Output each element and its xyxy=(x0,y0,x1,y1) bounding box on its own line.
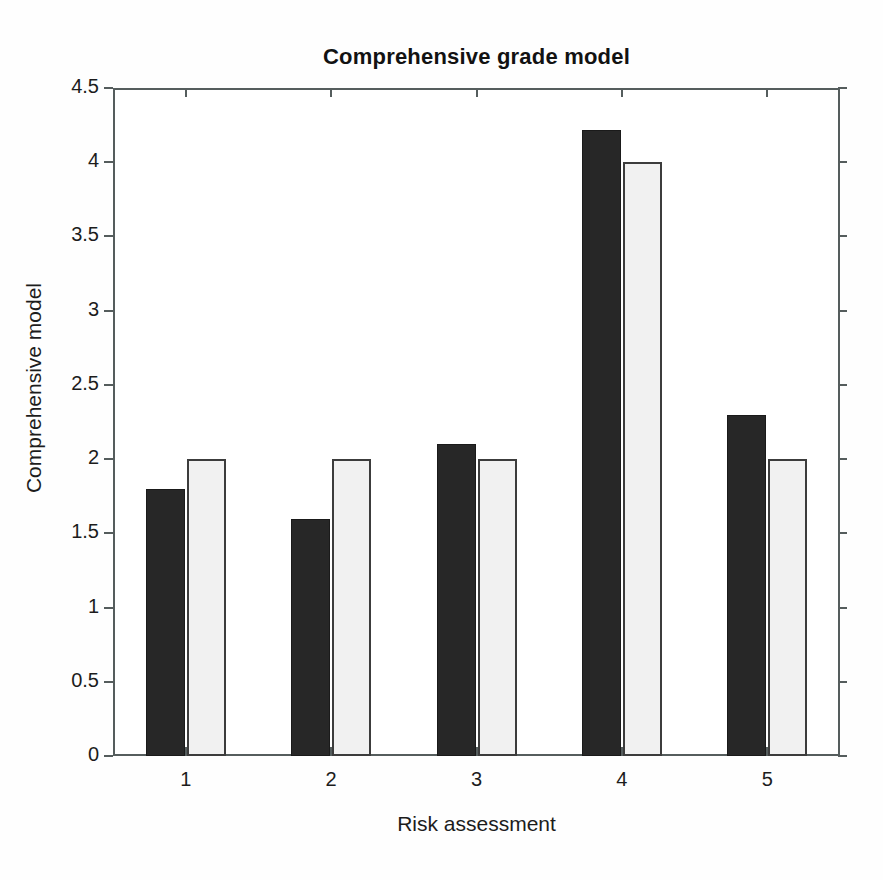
bars-layer xyxy=(113,88,840,756)
bar-light-series-3 xyxy=(478,459,517,756)
y-tick-mark xyxy=(104,161,113,163)
chart-title: Comprehensive grade model xyxy=(113,44,840,70)
y-tick-label: 0 xyxy=(88,743,99,766)
x-tick-label: 5 xyxy=(737,768,797,791)
bar-light-series-5 xyxy=(768,459,807,756)
bar-dark-series-1 xyxy=(146,489,185,756)
bar-light-series-1 xyxy=(187,459,226,756)
y-tick-label: 4.5 xyxy=(71,75,99,98)
x-tick-label: 3 xyxy=(447,768,507,791)
y-tick-mark xyxy=(104,532,113,534)
y-tick-mark xyxy=(104,235,113,237)
y-tick-label: 0.5 xyxy=(71,669,99,692)
y-axis-label: Comprehensive model xyxy=(22,178,46,598)
chart-figure: Comprehensive grade model Comprehensive … xyxy=(0,0,883,880)
y-tick-mark xyxy=(104,384,113,386)
y-tick-mark xyxy=(104,458,113,460)
y-tick-label: 3 xyxy=(88,298,99,321)
y-tick-mark xyxy=(104,310,113,312)
y-tick-label: 3.5 xyxy=(71,223,99,246)
y-tick-label: 1.5 xyxy=(71,520,99,543)
y-tick-label: 4 xyxy=(88,149,99,172)
bar-dark-series-5 xyxy=(727,415,766,756)
bar-dark-series-4 xyxy=(582,130,621,756)
bar-light-series-2 xyxy=(332,459,371,756)
x-tick-label: 4 xyxy=(592,768,652,791)
x-axis-label: Risk assessment xyxy=(113,812,840,836)
y-tick-label: 2 xyxy=(88,446,99,469)
y-tick-mark xyxy=(104,755,113,757)
y-tick-mark xyxy=(104,87,113,89)
y-tick-label: 1 xyxy=(88,595,99,618)
x-tick-label: 1 xyxy=(156,768,216,791)
y-tick-label: 2.5 xyxy=(71,372,99,395)
bar-dark-series-2 xyxy=(291,519,330,757)
bar-light-series-4 xyxy=(623,162,662,756)
y-tick-mark xyxy=(104,681,113,683)
bar-dark-series-3 xyxy=(437,444,476,756)
y-tick-mark xyxy=(104,607,113,609)
x-tick-label: 2 xyxy=(301,768,361,791)
